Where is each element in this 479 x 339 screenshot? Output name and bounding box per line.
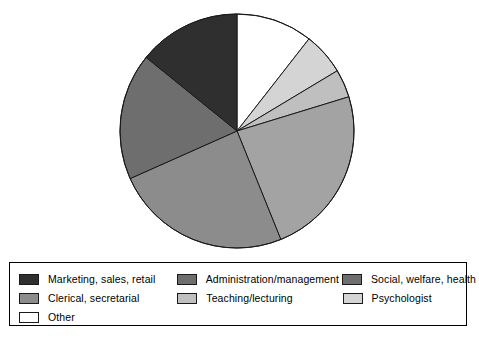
legend-label-other: Other <box>48 311 75 323</box>
legend-swatch-teaching-lecturing <box>177 293 197 304</box>
legend-item-clerical-secretarial[interactable]: Clerical, secretarial <box>10 292 174 304</box>
legend-item-social-welfare-health[interactable]: Social, welfare, health <box>339 273 466 285</box>
legend-row: Other <box>10 308 466 326</box>
legend-item-teaching-lecturing[interactable]: Teaching/lecturing <box>174 292 339 304</box>
legend-label-social-welfare-health: Social, welfare, health <box>371 273 476 285</box>
pie-chart-area <box>0 0 479 255</box>
pie-slice-group <box>120 14 354 248</box>
legend-row: Clerical, secretarial Teaching/lecturing… <box>10 289 466 307</box>
legend-item-other[interactable]: Other <box>10 311 175 323</box>
legend-swatch-psychologist <box>343 293 363 304</box>
legend-item-marketing-sales-retail[interactable]: Marketing, sales, retail <box>10 273 174 285</box>
legend-label-marketing-sales-retail: Marketing, sales, retail <box>48 273 155 285</box>
chart-legend: Marketing, sales, retail Administration/… <box>9 262 467 326</box>
legend-swatch-social-welfare-health <box>342 274 362 285</box>
legend-label-clerical-secretarial: Clerical, secretarial <box>48 292 139 304</box>
legend-swatch-clerical-secretarial <box>19 293 39 304</box>
pie-chart-svg <box>0 0 479 255</box>
legend-label-administration-management: Administration/management <box>206 273 339 285</box>
legend-item-administration-management[interactable]: Administration/management <box>174 273 339 285</box>
legend-item-psychologist[interactable]: Psychologist <box>340 292 466 304</box>
legend-swatch-administration-management <box>177 274 197 285</box>
legend-label-psychologist: Psychologist <box>372 292 432 304</box>
legend-row: Marketing, sales, retail Administration/… <box>10 270 466 288</box>
legend-swatch-other <box>19 312 39 323</box>
legend-swatch-marketing-sales-retail <box>19 274 39 285</box>
legend-label-teaching-lecturing: Teaching/lecturing <box>206 292 292 304</box>
